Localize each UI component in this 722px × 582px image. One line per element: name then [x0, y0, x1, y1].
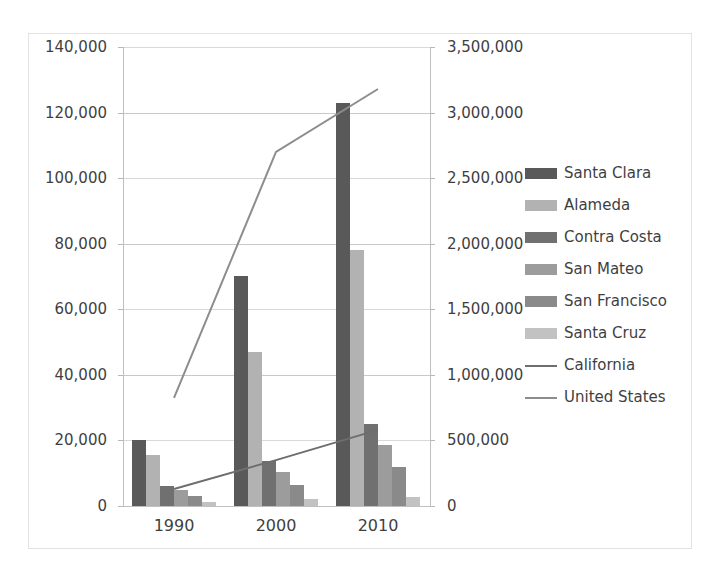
left-axis-tick-label: 100,000	[45, 171, 107, 186]
left-axis-tick	[118, 440, 123, 441]
legend-item-label: Santa Clara	[564, 166, 651, 181]
right-axis-tick-label: 3,500,000	[447, 40, 523, 55]
legend-line-icon	[525, 392, 557, 403]
right-axis-tick	[430, 309, 435, 310]
right-axis-tick	[430, 506, 435, 507]
legend-item-label: San Mateo	[564, 262, 643, 277]
right-axis-tick	[430, 47, 435, 48]
left-axis-tick-label: 140,000	[45, 40, 107, 55]
legend-item-label: California	[564, 358, 635, 373]
right-axis-tick-label: 1,000,000	[447, 367, 523, 382]
right-axis-tick	[430, 178, 435, 179]
category-axis-labels: 199020002010	[123, 516, 429, 542]
legend-item-label: Santa Cruz	[564, 326, 646, 341]
left-axis-tick-label: 40,000	[55, 367, 108, 382]
line-series-california	[174, 430, 378, 489]
legend-swatch-icon	[525, 296, 557, 307]
legend-item-label: San Francisco	[564, 294, 667, 309]
left-axis-tick	[118, 375, 123, 376]
legend-swatch-icon	[525, 200, 557, 211]
left-axis-tick	[118, 113, 123, 114]
right-axis-tick	[430, 113, 435, 114]
legend-swatch-icon	[525, 232, 557, 243]
left-axis-tick-label: 80,000	[55, 236, 108, 251]
right-axis-tick-label: 2,000,000	[447, 236, 523, 251]
chart-plot-wrapper: 020,00040,00060,00080,000100,000120,0001…	[29, 34, 691, 548]
left-axis-tick	[118, 47, 123, 48]
legend-item-contra-costa[interactable]: Contra Costa	[525, 221, 689, 253]
right-axis-tick-label: 2,500,000	[447, 171, 523, 186]
legend-swatch-icon	[525, 328, 557, 339]
right-axis-tick-label: 3,000,000	[447, 105, 523, 120]
left-axis-tick-label: 60,000	[55, 302, 108, 317]
right-axis-tick	[430, 244, 435, 245]
left-axis-tick-label: 120,000	[45, 105, 107, 120]
right-axis-tick-label: 1,500,000	[447, 302, 523, 317]
chart-frame: 020,00040,00060,00080,000100,000120,0001…	[28, 33, 692, 549]
right-axis-tick	[430, 440, 435, 441]
line-series-layer	[123, 47, 429, 506]
chart-legend: Santa ClaraAlamedaContra CostaSan MateoS…	[525, 157, 689, 413]
right-axis-tick-label: 500,000	[447, 433, 509, 448]
left-axis-tick-label: 0	[97, 499, 107, 514]
legend-swatch-icon	[525, 264, 557, 275]
category-label-2000: 2000	[256, 516, 297, 535]
left-axis-tick	[118, 244, 123, 245]
legend-item-santa-cruz[interactable]: Santa Cruz	[525, 317, 689, 349]
legend-swatch-icon	[525, 168, 557, 179]
category-label-2010: 2010	[358, 516, 399, 535]
right-axis-tick-label: 0	[447, 499, 457, 514]
left-axis-tick	[118, 506, 123, 507]
legend-item-label: Contra Costa	[564, 230, 662, 245]
legend-item-label: United States	[564, 390, 666, 405]
legend-item-alameda[interactable]: Alameda	[525, 189, 689, 221]
right-axis-tick	[430, 375, 435, 376]
left-axis-tick	[118, 309, 123, 310]
legend-item-santa-clara[interactable]: Santa Clara	[525, 157, 689, 189]
legend-item-label: Alameda	[564, 198, 630, 213]
left-axis-tick	[118, 178, 123, 179]
legend-item-san-francisco[interactable]: San Francisco	[525, 285, 689, 317]
left-axis-tick-label: 20,000	[55, 433, 108, 448]
category-label-1990: 1990	[154, 516, 195, 535]
legend-item-california[interactable]: California	[525, 349, 689, 381]
legend-item-united-states[interactable]: United States	[525, 381, 689, 413]
line-series-united-states	[174, 89, 378, 398]
legend-line-icon	[525, 360, 557, 371]
legend-item-san-mateo[interactable]: San Mateo	[525, 253, 689, 285]
